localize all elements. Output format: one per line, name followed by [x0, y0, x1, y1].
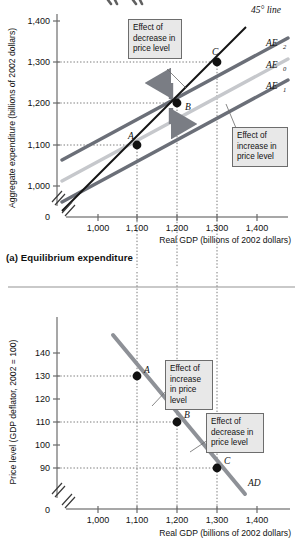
panel-b-svg: 140 130 120 110 100 90 0 1,000 1,100 1,2… — [0, 272, 295, 541]
y-tick-label-90-b: 90 — [40, 463, 50, 473]
svg-text:C: C — [224, 456, 231, 466]
x-tick-label-1100-a: 1,100 — [126, 223, 149, 233]
callout-line: Effect of — [170, 364, 208, 375]
callout-line: price level — [237, 152, 283, 163]
y-tick-label-1000-a: 1,000 — [27, 181, 50, 191]
svg-text:C: C — [212, 47, 219, 57]
y-axis-title-b: Price level (GDP deflator, 2002 = 100) — [8, 339, 18, 484]
callout-line: Effect of — [211, 417, 259, 428]
y-tick-label-140-b: 140 — [35, 348, 50, 358]
axis-break-a — [52, 191, 75, 216]
svg-text:AE: AE — [265, 81, 278, 91]
callout-effect-of-decrease-b: Effect of decrease in price level — [206, 413, 264, 453]
callout-effect-of-increase-a: Effect of increase in price level — [232, 127, 288, 167]
x-tick-label-1400-b: 1,400 — [246, 515, 269, 525]
y-tick-label-120-b: 120 — [35, 394, 50, 404]
panel-b-aggregate-demand: 140 130 120 110 100 90 0 1,000 1,100 1,2… — [0, 272, 295, 541]
y-tick-label-100-b: 100 — [35, 440, 50, 450]
svg-text:AE: AE — [265, 38, 278, 48]
x-tick-label-1000-a: 1,000 — [87, 223, 110, 233]
x-tick-label-1200-b: 1,200 — [166, 515, 189, 525]
curve-label-ad: AD — [247, 478, 261, 488]
callout-line: in price — [170, 385, 208, 396]
y-tick-label-1400-a: 1,400 — [27, 16, 50, 26]
x-axis-title-b: Real GDP (billions of 2002 dollars) — [159, 528, 291, 538]
x-tick-label-1000-b: 1,000 — [87, 515, 110, 525]
origin-label-b: 0 — [45, 505, 50, 515]
y-tick-label-1100-a: 1,100 — [27, 140, 50, 150]
svg-text:A: A — [143, 365, 150, 375]
y-axis-title-a: Aggregate expenditure (billions of 2002 … — [7, 28, 17, 208]
callout-line: increase in — [237, 142, 283, 153]
svg-text:1: 1 — [283, 86, 286, 93]
y-tick-label-1200-a: 1,200 — [27, 98, 50, 108]
y-tick-label-130-b: 130 — [35, 371, 50, 381]
svg-text:B: B — [185, 102, 191, 112]
callout-line: level — [170, 396, 208, 407]
x-tick-label-1100-b: 1,100 — [126, 515, 149, 525]
data-point-c: C — [212, 47, 221, 66]
svg-text:A: A — [127, 131, 134, 141]
axis-break-b — [52, 483, 75, 508]
callout-effect-of-decrease-a: Effect of decrease in price level — [128, 19, 182, 59]
x-tick-label-1300-b: 1,300 — [206, 515, 229, 525]
callout-effect-of-increase-b: Effect of increase in price level — [165, 360, 213, 410]
x-tick-label-1200-a: 1,200 — [166, 223, 189, 233]
callout-line: decrease in — [133, 34, 177, 45]
callout-line: price level — [211, 438, 259, 449]
x-tick-label-1400-a: 1,400 — [246, 223, 269, 233]
panel-a-equilibrium-expenditure: 1,400 1,300 1,200 1,100 1,000 0 1,000 1,… — [0, 0, 295, 268]
origin-label-a: 0 — [45, 212, 50, 222]
callout-line: price level — [133, 44, 177, 55]
x-axis-title-a: Real GDP (billions of 2002 dollars) — [159, 235, 291, 245]
svg-text:2: 2 — [283, 43, 287, 50]
curve-label-45-line: 45° line — [251, 5, 281, 15]
y-tick-label-110-b: 110 — [36, 417, 50, 427]
callout-line: Effect of — [133, 23, 177, 34]
svg-text:B: B — [184, 410, 190, 420]
callout-line: decrease in — [211, 428, 259, 439]
panel-a-caption: (a) Equilibrium expenditure — [6, 252, 133, 263]
y-tick-label-1300-a: 1,300 — [27, 57, 50, 67]
callout-line: increase — [170, 375, 208, 386]
svg-text:AE: AE — [265, 60, 278, 70]
callout-line: Effect of — [237, 131, 283, 142]
svg-text:0: 0 — [283, 65, 287, 72]
x-tick-label-1300-a: 1,300 — [206, 223, 229, 233]
cropped-title-remnant — [108, 0, 142, 4]
data-point-b: B — [173, 99, 191, 112]
